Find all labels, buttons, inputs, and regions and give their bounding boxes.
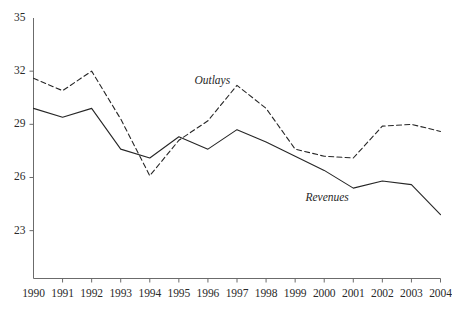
x-axis-tick-label: 1992 bbox=[80, 288, 103, 300]
y-axis-tick-label: 35 bbox=[2, 12, 26, 24]
x-axis-tick-label: 2000 bbox=[313, 288, 336, 300]
x-axis-tick-label: 1998 bbox=[255, 288, 278, 300]
series-line-revenues bbox=[34, 108, 441, 214]
series-label-revenues: Revenues bbox=[305, 192, 348, 204]
y-axis-tick-label: 29 bbox=[2, 119, 26, 131]
x-axis-tick-label: 2004 bbox=[429, 288, 452, 300]
series-label-outlays: Outlays bbox=[194, 75, 230, 87]
chart-container: 3532292623 19901991199219931994199519961… bbox=[0, 0, 452, 310]
x-axis-tick-label: 2002 bbox=[371, 288, 394, 300]
chart-axes bbox=[34, 18, 441, 279]
series-line-outlays bbox=[34, 71, 441, 176]
y-axis-tick-label: 32 bbox=[2, 65, 26, 77]
x-axis-tick-label: 1993 bbox=[109, 288, 132, 300]
x-axis-tick-label: 1997 bbox=[226, 288, 249, 300]
x-axis-tick-label: 1996 bbox=[197, 288, 220, 300]
x-axis-tick-label: 1990 bbox=[22, 288, 45, 300]
chart-plot-svg bbox=[0, 0, 452, 310]
y-axis-tick-label: 26 bbox=[2, 172, 26, 184]
x-axis-tick-label: 1994 bbox=[138, 288, 161, 300]
x-axis-tick-label: 2003 bbox=[400, 288, 423, 300]
x-axis-ticks bbox=[63, 279, 441, 283]
chart-series-group bbox=[34, 71, 441, 215]
x-axis-tick-label: 1999 bbox=[284, 288, 307, 300]
x-axis-tick-label: 1991 bbox=[51, 288, 74, 300]
x-axis-tick-label: 2001 bbox=[342, 288, 365, 300]
y-axis-tick-label: 23 bbox=[2, 225, 26, 237]
x-axis-tick-label: 1995 bbox=[168, 288, 191, 300]
y-axis-ticks bbox=[30, 71, 34, 230]
